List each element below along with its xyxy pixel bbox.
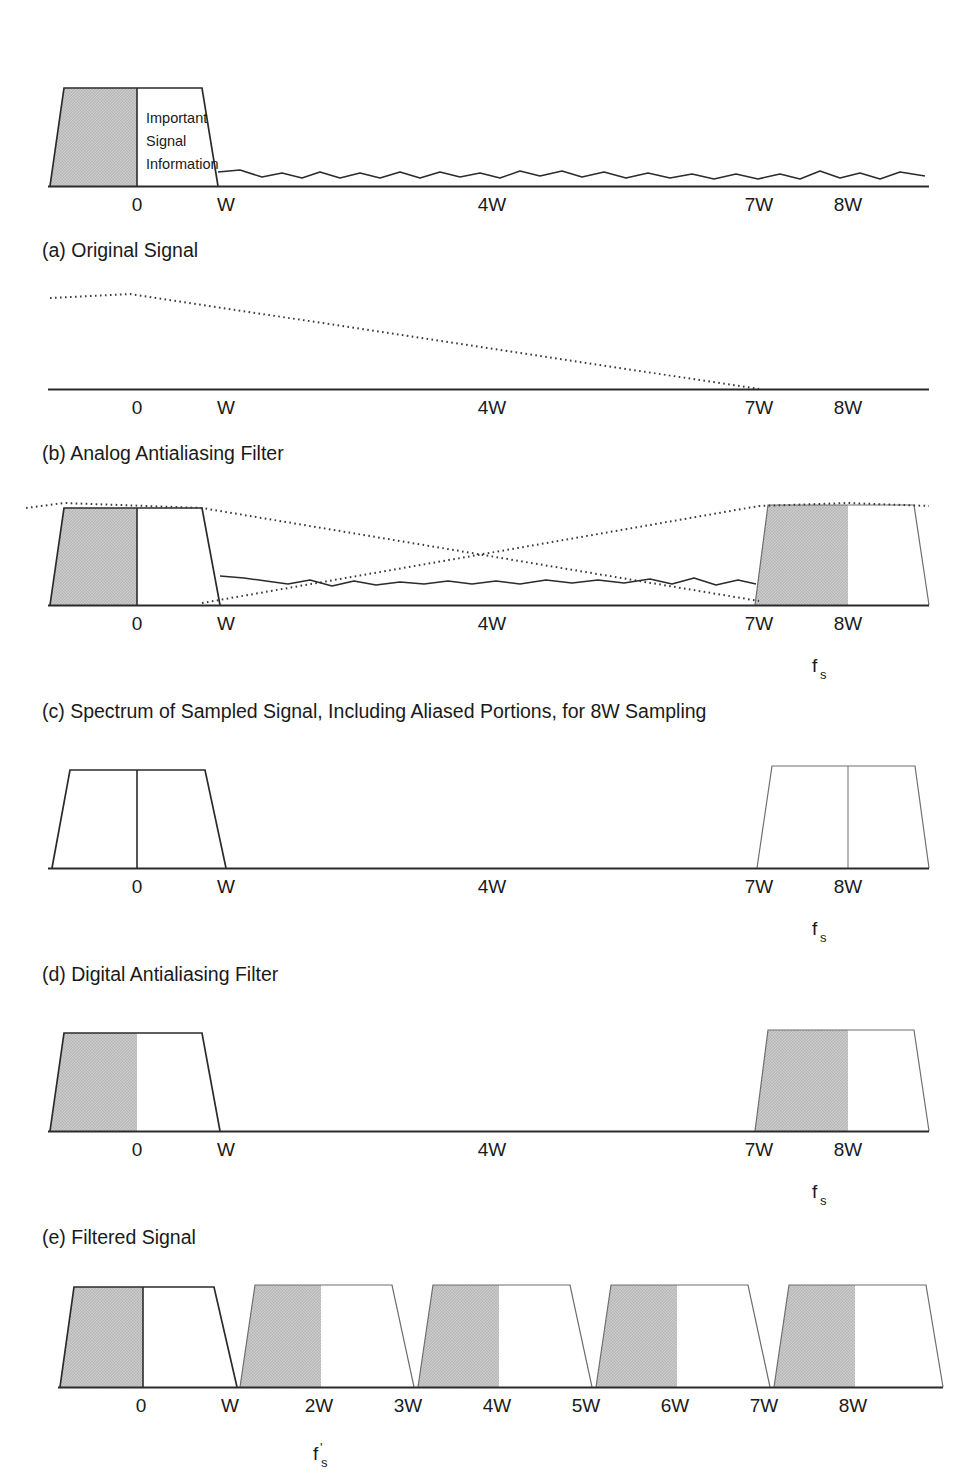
annotation-line-1: Important (146, 110, 207, 126)
panel-a-tick-0: 0 (132, 194, 143, 215)
panel-f-tick-5W: 5W (572, 1395, 601, 1416)
panel-c-tick-W: W (217, 613, 235, 634)
panel-a-shaded-region (50, 88, 137, 186)
panel-c-fs-label: f (812, 655, 818, 676)
panel-d-tick-0: 0 (132, 876, 143, 897)
panel-f-tick-0: 0 (136, 1395, 147, 1416)
panel-e-tick-8W: 8W (834, 1139, 863, 1160)
panel-b-tick-W: W (217, 397, 235, 418)
panel-c-caption: (c) Spectrum of Sampled Signal, Includin… (42, 700, 706, 722)
panel-f-fs-label: f (313, 1443, 319, 1464)
panel-c-tick-4W: 4W (478, 613, 507, 634)
panel-f-tick-W: W (221, 1395, 239, 1416)
panel-d-tick-W: W (217, 876, 235, 897)
panel-e-tick-W: W (217, 1139, 235, 1160)
panel-a-tick-W: W (217, 194, 235, 215)
figure-background (0, 0, 953, 1484)
panel-d-tick-7W: 7W (745, 876, 774, 897)
panel-e-shaded-region (50, 1033, 137, 1131)
panel-c-tick-7W: 7W (745, 613, 774, 634)
panel-a-tick-8W: 8W (834, 194, 863, 215)
panel-f-fs-prime: ' (320, 1440, 322, 1455)
panel-d-fs-subscript: s (820, 930, 827, 945)
panel-c-tick-8W: 8W (834, 613, 863, 634)
panel-f-fs-subscript: s (321, 1455, 328, 1470)
panel-f-tick-3W: 3W (394, 1395, 423, 1416)
panel-c-tick-0: 0 (132, 613, 143, 634)
panel-a-tick-4W: 4W (478, 194, 507, 215)
panel-e-tick-4W: 4W (478, 1139, 507, 1160)
panel-b-tick-7W: 7W (745, 397, 774, 418)
panel-b-tick-4W: 4W (478, 397, 507, 418)
panel-e-image-shaded-region (755, 1030, 848, 1131)
panel-f-tick-4W: 4W (483, 1395, 512, 1416)
panel-d-caption: (d) Digital Antialiasing Filter (42, 963, 279, 985)
panel-c-fs-subscript: s (820, 667, 827, 682)
panel-e-caption: (e) Filtered Signal (42, 1226, 196, 1248)
panel-c-alias-shaded-region (755, 505, 848, 605)
panel-f-tick-7W: 7W (750, 1395, 779, 1416)
panel-e-fs-subscript: s (820, 1193, 827, 1208)
panel-d-tick-4W: 4W (478, 876, 507, 897)
panel-e-fs-label: f (812, 1181, 818, 1202)
annotation-line-2: Signal (146, 133, 186, 149)
panel-d-fs-label: f (812, 918, 818, 939)
panel-b-tick-8W: 8W (834, 397, 863, 418)
panel-d-tick-8W: 8W (834, 876, 863, 897)
panel-f-tick-6W: 6W (661, 1395, 690, 1416)
panel-e-tick-0: 0 (132, 1139, 143, 1160)
panel-b-tick-0: 0 (132, 397, 143, 418)
panel-a-caption: (a) Original Signal (42, 239, 198, 261)
antialiasing-figure: Important Signal Information 0 W 4W 7W 8… (0, 0, 953, 1484)
panel-c-shaded-region (50, 508, 137, 605)
panel-b-caption: (b) Analog Antialiasing Filter (42, 442, 284, 464)
annotation-line-3: Information (146, 156, 219, 172)
panel-f-tick-8W: 8W (839, 1395, 868, 1416)
panel-a-tick-7W: 7W (745, 194, 774, 215)
panel-f-tick-2W: 2W (305, 1395, 334, 1416)
panel-e-tick-7W: 7W (745, 1139, 774, 1160)
